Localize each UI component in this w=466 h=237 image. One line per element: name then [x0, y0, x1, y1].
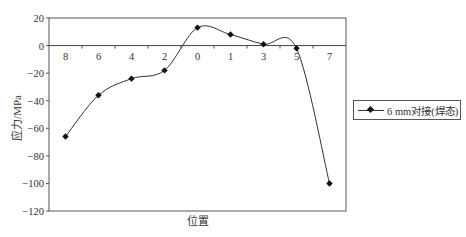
- x-tick-label: 3: [261, 51, 266, 62]
- y-tick-label: −20: [28, 68, 44, 79]
- diamond-marker-icon: [367, 106, 374, 113]
- y-axis-ticks: 200−20−40−60−80−100−120: [22, 13, 49, 217]
- x-tick-label: 6: [96, 51, 101, 62]
- diamond-marker-icon: [128, 75, 134, 81]
- series-line: [66, 26, 330, 184]
- legend-diamond-marker-icon: [358, 105, 384, 115]
- x-tick-label: 8: [63, 51, 68, 62]
- x-tick-label: 1: [228, 51, 233, 62]
- x-tick-label: 4: [129, 51, 135, 62]
- y-tick-label: −40: [28, 96, 44, 107]
- y-axis-label: 应力/MPa: [10, 95, 23, 141]
- x-tick-label: 7: [327, 51, 332, 62]
- x-tick-label: 2: [162, 51, 167, 62]
- diamond-marker-icon: [227, 31, 233, 37]
- data-series: [62, 24, 332, 186]
- diamond-marker-icon: [326, 180, 332, 186]
- y-tick-label: −60: [28, 123, 44, 134]
- plot-frame: [49, 18, 346, 211]
- chart: 200−20−40−60−80−100−120 864201357 应力/MPa…: [0, 0, 466, 237]
- x-axis-label: 位置: [187, 214, 209, 227]
- legend: 6 mm对接(焊态): [353, 100, 461, 120]
- y-tick-label: 0: [39, 41, 44, 52]
- y-tick-label: −80: [28, 151, 44, 162]
- y-tick-label: −120: [22, 206, 44, 217]
- legend-label: 6 mm对接(焊态): [387, 103, 458, 118]
- x-axis-ticks: 864201357: [63, 46, 332, 62]
- y-tick-label: 20: [34, 13, 45, 24]
- y-tick-label: −100: [22, 178, 44, 189]
- diamond-marker-icon: [260, 41, 266, 47]
- x-tick-label: 0: [195, 51, 200, 62]
- plot-border: [49, 18, 346, 211]
